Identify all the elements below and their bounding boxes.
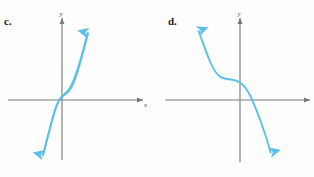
panel-c-curve xyxy=(43,33,88,155)
panel-c-y-axis-label: y xyxy=(59,10,64,18)
panel-c: c. y x xyxy=(0,0,157,177)
panel-d: d. y xyxy=(157,0,314,177)
panel-d-curve xyxy=(199,31,271,153)
figure-root: c. y x xyxy=(0,0,314,177)
panel-c-plot: y x xyxy=(0,0,157,177)
panel-d-y-axis-label: y xyxy=(237,10,242,18)
panel-d-plot: y xyxy=(157,0,314,177)
panel-c-curve-body xyxy=(43,34,88,156)
panel-c-x-axis-label: x xyxy=(143,101,148,109)
